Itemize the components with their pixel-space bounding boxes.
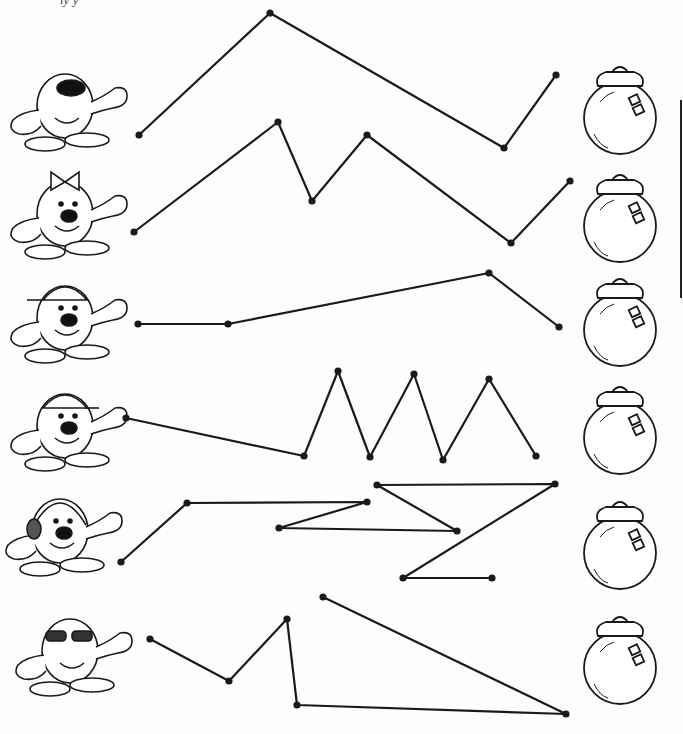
trace-path-6[interactable]	[146, 593, 569, 717]
path-dot	[283, 615, 290, 622]
path-dot	[500, 144, 507, 151]
character-3-illustration	[11, 286, 127, 363]
path-dot	[183, 499, 190, 506]
trace-path-1[interactable]	[135, 9, 559, 151]
path-dot	[532, 452, 539, 459]
path-dot	[117, 558, 124, 565]
path-dot	[453, 527, 460, 534]
path-dot	[410, 370, 417, 377]
character-1-illustration	[11, 74, 127, 151]
character-2-illustration	[11, 172, 127, 259]
path-dot	[300, 452, 307, 459]
worksheet-artwork	[0, 0, 683, 734]
path-dot	[363, 498, 370, 505]
path-dot	[485, 269, 492, 276]
character-5-illustration	[6, 499, 122, 576]
jar-2-illustration	[584, 175, 656, 262]
jar-1-illustration	[584, 67, 656, 154]
path-dot	[399, 574, 406, 581]
jar-3-illustration	[584, 279, 656, 366]
path-dot	[551, 480, 558, 487]
path-dot	[366, 453, 373, 460]
jar-5-illustration	[584, 502, 656, 589]
path-dot	[274, 118, 281, 125]
path-dot	[373, 481, 380, 488]
path-dot	[566, 177, 573, 184]
trace-path-3[interactable]	[134, 269, 562, 330]
path-dot	[122, 414, 129, 421]
path-dot	[562, 710, 569, 717]
path-dot	[224, 320, 231, 327]
path-dot	[334, 367, 341, 374]
path-dot	[319, 593, 326, 600]
jar-6-illustration	[584, 617, 656, 704]
path-dot	[275, 524, 282, 531]
worksheet-page: ly y	[0, 0, 683, 734]
page-edge-bar	[680, 100, 682, 298]
trace-path-5[interactable]	[117, 480, 558, 581]
path-dot	[135, 131, 142, 138]
path-dot	[146, 635, 153, 642]
path-dot	[293, 701, 300, 708]
path-dot	[439, 456, 446, 463]
path-dot	[225, 677, 232, 684]
path-dot	[507, 239, 514, 246]
character-4-illustration	[11, 394, 127, 471]
trace-path-2[interactable]	[130, 118, 573, 246]
path-dot	[485, 375, 492, 382]
path-dot	[552, 71, 559, 78]
path-dot	[555, 323, 562, 330]
path-dot	[363, 131, 370, 138]
trace-path-4[interactable]	[122, 367, 539, 463]
path-dot	[134, 320, 141, 327]
path-dot	[266, 9, 273, 16]
path-dot	[488, 574, 495, 581]
character-6-illustration	[16, 619, 132, 696]
path-dot	[308, 197, 315, 204]
jar-4-illustration	[584, 387, 656, 474]
path-dot	[130, 228, 137, 235]
